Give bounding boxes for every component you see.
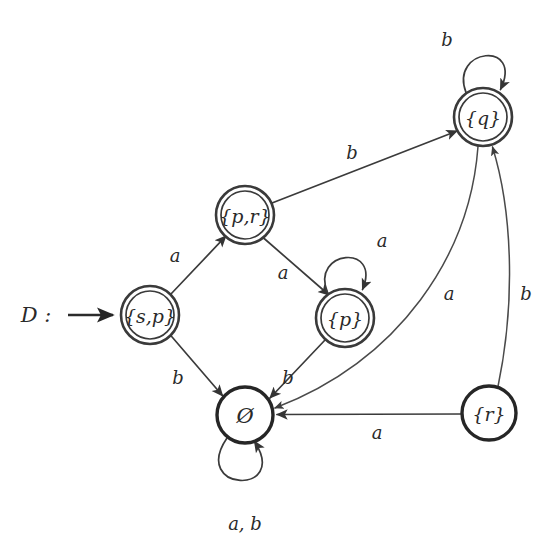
start-state-label: D :	[20, 303, 52, 327]
edge-r-to-empty: a	[277, 414, 462, 443]
edge-label-r-q: b	[520, 283, 532, 304]
state-label-empty: Ø	[235, 404, 254, 428]
state-node-q[interactable]: {q}	[454, 88, 512, 146]
edge-label-q-empty: a	[444, 283, 455, 304]
state-diagram-svg: D : {p,r} --> a empty --> b {p} --> a {q…	[0, 0, 554, 550]
state-node-r[interactable]: {r}	[462, 386, 516, 440]
edge-sp-to-pr: a	[170, 236, 226, 294]
state-node-p[interactable]: {p}	[316, 289, 374, 347]
edge-path-p-self	[325, 258, 366, 293]
edge-r-to-q: b	[493, 147, 532, 387]
edge-label-q-self: b	[441, 29, 453, 50]
edge-sp-to-empty: b	[171, 336, 223, 396]
edge-label-p-empty: b	[282, 367, 294, 388]
state-node-sp[interactable]: {s,p}	[121, 286, 179, 344]
state-label-r: {r}	[472, 403, 505, 425]
edge-label-r-empty: a	[372, 422, 383, 443]
edge-label-sp-empty: b	[172, 367, 184, 388]
edge-q-self-loop: b	[441, 29, 505, 93]
state-label-p: {p}	[327, 308, 363, 330]
state-node-pr[interactable]: {p,r}	[216, 186, 274, 244]
state-label-sp: {s,p}	[124, 305, 176, 327]
edge-p-self-loop: a	[325, 230, 388, 293]
edge-label-pr-q: b	[346, 142, 358, 163]
edge-label-empty-self: a, b	[228, 513, 262, 534]
edge-path-pr-q	[272, 131, 457, 203]
edge-label-p-self: a	[377, 230, 388, 251]
edge-q-to-empty: a	[275, 147, 478, 409]
edge-path-empty-self	[219, 438, 263, 480]
edge-path-r-q	[493, 147, 510, 387]
automaton-diagram-canvas: D : {p,r} --> a empty --> b {p} --> a {q…	[0, 0, 554, 550]
edge-path-r-empty	[277, 414, 462, 415]
edge-path-q-empty	[275, 147, 478, 409]
edge-label-pr-p: a	[278, 262, 289, 283]
edge-label-sp-pr: a	[170, 245, 181, 266]
edge-empty-self-loop: a, b	[219, 438, 263, 534]
edge-pr-to-q: b	[272, 131, 457, 203]
state-label-pr: {p,r}	[219, 205, 270, 227]
state-label-q: {q}	[465, 107, 501, 129]
edge-path-pr-p	[263, 238, 329, 296]
state-node-empty[interactable]: Ø	[217, 387, 273, 443]
start-marker: D :	[20, 303, 113, 327]
edge-pr-to-p: a	[263, 238, 329, 296]
